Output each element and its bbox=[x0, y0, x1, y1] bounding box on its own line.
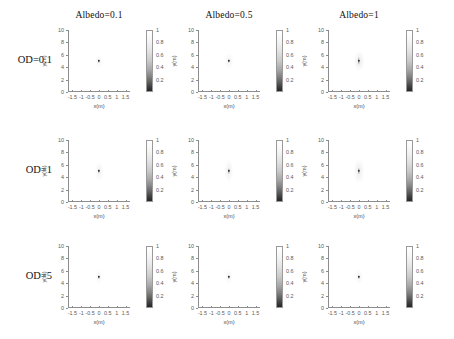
panel-r1c2-xtick-4: 0.5 bbox=[234, 94, 242, 100]
panel-r1c2-colorbar[interactable] bbox=[276, 30, 283, 92]
panel-r3c2-xtick-5: 1 bbox=[245, 310, 248, 316]
panel-r2c3-ytickmark-2 bbox=[326, 177, 328, 178]
panel-r3c1-cbar-tick-2: 0.6 bbox=[156, 268, 164, 274]
panel-r1c2 bbox=[198, 30, 260, 92]
panel-r1c2-xtick-2: -0.5 bbox=[215, 94, 224, 100]
panel-r1c1-ytickmark-5 bbox=[66, 30, 68, 31]
panel-r2c1-cbar-tick-0: 1 bbox=[156, 137, 159, 143]
panel-r2c2-xlabel: x(m) bbox=[223, 213, 234, 219]
panel-r1c1-colorbar[interactable] bbox=[146, 30, 153, 92]
panel-r2c3-ytickmark-0 bbox=[326, 202, 328, 203]
panel-r2c1-ytickmark-3 bbox=[66, 165, 68, 166]
panel-r2c3-xtick-4: 0.5 bbox=[364, 204, 372, 210]
panel-r3c2-colorbar[interactable] bbox=[276, 246, 283, 308]
panel-r3c1-ytick-1: 2 bbox=[51, 293, 64, 299]
panel-r2c1-cbar-tick-4: 0.2 bbox=[156, 187, 164, 193]
panel-r3c3-ytick-1: 2 bbox=[311, 293, 324, 299]
panel-r3c1 bbox=[68, 246, 130, 308]
panel-r1c1-xtickmark-5 bbox=[117, 90, 118, 92]
panel-r1c3-ytickmark-2 bbox=[326, 67, 328, 68]
panel-r2c1-colorbar[interactable] bbox=[146, 140, 153, 202]
panel-r2c1-xtick-5: 1 bbox=[115, 204, 118, 210]
panel-r2c2-cbar-tick-4: 0.2 bbox=[286, 187, 294, 193]
panel-r1c1-ytickmark-0 bbox=[66, 92, 68, 93]
panel-r3c2-ytick-0: 0 bbox=[181, 305, 194, 311]
panel-r1c3-xtick-6: 1.5 bbox=[382, 94, 390, 100]
panel-r3c3-xtickmark-5 bbox=[377, 306, 378, 308]
panel-r1c3-plot-area bbox=[328, 30, 390, 92]
panel-r2c1-xlabel: x(m) bbox=[93, 213, 104, 219]
panel-r2c1-xtickmark-1 bbox=[81, 200, 82, 202]
panel-r2c3-xtickmark-3 bbox=[359, 200, 360, 202]
panel-r3c1-xlabel: x(m) bbox=[93, 319, 104, 325]
panel-r2c1-xtickmark-4 bbox=[108, 200, 109, 202]
panel-r3c1-ytickmark-1 bbox=[66, 296, 68, 297]
panel-r3c1-ylabel: y(m) bbox=[41, 271, 47, 282]
panel-r3c3-halo bbox=[355, 269, 363, 285]
panel-r1c3-ylabel: y(m) bbox=[301, 55, 307, 66]
panel-r3c3-ytickmark-3 bbox=[326, 271, 328, 272]
panel-r3c3-xtick-5: 1 bbox=[375, 310, 378, 316]
panel-r3c2-ytick-1: 2 bbox=[181, 293, 194, 299]
panel-r1c3-ytickmark-3 bbox=[326, 55, 328, 56]
panel-r2c1-ytick-0: 0 bbox=[51, 199, 64, 205]
panel-r1c1-xtickmark-4 bbox=[108, 90, 109, 92]
panel-r3c3-ytick-3: 6 bbox=[311, 268, 324, 274]
panel-r3c1-xtick-0: -1.5 bbox=[68, 310, 77, 316]
panel-r3c3-colorbar[interactable] bbox=[406, 246, 413, 308]
panel-r2c2-halo bbox=[224, 160, 233, 182]
panel-r3c2-ytick-3: 6 bbox=[181, 268, 194, 274]
panel-r3c2-cbar-tick-3: 0.4 bbox=[286, 280, 294, 286]
panel-r1c2-cbar-tick-4: 0.2 bbox=[286, 77, 294, 83]
panel-r1c1-ylabel: y(m) bbox=[41, 55, 47, 66]
panel-r3c1-xtick-2: -0.5 bbox=[85, 310, 94, 316]
panel-r1c2-xtick-3: 0 bbox=[228, 94, 231, 100]
panel-r3c2-xtick-0: -1.5 bbox=[198, 310, 207, 316]
panel-r1c3-colorbar[interactable] bbox=[406, 30, 413, 92]
panel-r3c3-source-point bbox=[358, 276, 360, 278]
panel-r1c1-xtick-5: 1 bbox=[115, 94, 118, 100]
panel-r2c3-ytickmark-4 bbox=[326, 152, 328, 153]
panel-r3c3-xtick-1: -1 bbox=[339, 310, 344, 316]
panel-r1c2-xtickmark-4 bbox=[238, 90, 239, 92]
panel-r3c2-xtick-2: -0.5 bbox=[215, 310, 224, 316]
panel-r1c3-cbar-tick-0: 1 bbox=[416, 27, 419, 33]
panel-r1c3-ytick-5: 10 bbox=[311, 27, 324, 33]
panel-r1c2-xtickmark-6 bbox=[256, 90, 257, 92]
panel-r1c3-ytick-1: 2 bbox=[311, 77, 324, 83]
panel-r1c1-xtick-2: -0.5 bbox=[85, 94, 94, 100]
panel-r3c2-xtickmark-4 bbox=[238, 306, 239, 308]
panel-r1c2-source-point bbox=[228, 60, 230, 62]
panel-r2c3-halo bbox=[354, 159, 365, 184]
panel-r1c1-ytick-5: 10 bbox=[51, 27, 64, 33]
panel-r1c1-xtick-1: -1 bbox=[79, 94, 84, 100]
panel-r1c2-xtick-1: -1 bbox=[209, 94, 214, 100]
panel-r3c2-xtickmark-5 bbox=[247, 306, 248, 308]
panel-r1c3-xtickmark-1 bbox=[341, 90, 342, 92]
panel-r1c3-xtick-1: -1 bbox=[339, 94, 344, 100]
panel-r3c3-xtickmark-4 bbox=[368, 306, 369, 308]
panel-r1c1-xtickmark-3 bbox=[99, 90, 100, 92]
panel-r3c1-xtickmark-6 bbox=[126, 306, 127, 308]
panel-r2c2-colorbar[interactable] bbox=[276, 140, 283, 202]
panel-r2c1 bbox=[68, 140, 130, 202]
panel-r3c1-xtickmark-2 bbox=[90, 306, 91, 308]
panel-r2c1-xtick-1: -1 bbox=[79, 204, 84, 210]
panel-r3c3-ytick-0: 0 bbox=[311, 305, 324, 311]
panel-r3c3-xtick-0: -1.5 bbox=[328, 310, 337, 316]
panel-r1c1-xtickmark-1 bbox=[81, 90, 82, 92]
panel-r2c3-cbar-tick-3: 0.4 bbox=[416, 174, 424, 180]
panel-r3c1-colorbar[interactable] bbox=[146, 246, 153, 308]
panel-r3c2-plume bbox=[228, 275, 230, 279]
panel-r1c1-ytickmark-2 bbox=[66, 67, 68, 68]
panel-r3c1-xtick-4: 0.5 bbox=[104, 310, 112, 316]
panel-r2c1-cbar-tick-1: 0.8 bbox=[156, 149, 164, 155]
panel-r2c3-colorbar[interactable] bbox=[406, 140, 413, 202]
figure-canvas: Albedo=0.1Albedo=0.5Albedo=1OD=0.1OD=1OD… bbox=[0, 0, 454, 339]
panel-r2c2-ytickmark-2 bbox=[196, 177, 198, 178]
panel-r2c2-xtick-4: 0.5 bbox=[234, 204, 242, 210]
panel-r1c3-cbar-tick-4: 0.2 bbox=[416, 77, 424, 83]
panel-r2c2-xtickmark-4 bbox=[238, 200, 239, 202]
panel-r1c2-ytick-3: 6 bbox=[181, 52, 194, 58]
panel-r2c2-ytickmark-4 bbox=[196, 152, 198, 153]
